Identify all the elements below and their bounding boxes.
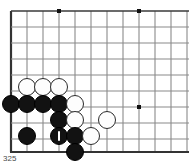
- last-move-marker-icon: [58, 131, 60, 141]
- star-point: [137, 105, 141, 109]
- go-board-figure: 325: [0, 0, 189, 165]
- star-point: [137, 9, 141, 13]
- black-stone: [18, 127, 36, 145]
- white-stone: [50, 78, 68, 96]
- white-stone: [82, 127, 100, 145]
- white-stone: [98, 111, 116, 129]
- star-point: [57, 9, 61, 13]
- figure-caption: 325: [3, 154, 16, 164]
- black-stone: [66, 143, 84, 161]
